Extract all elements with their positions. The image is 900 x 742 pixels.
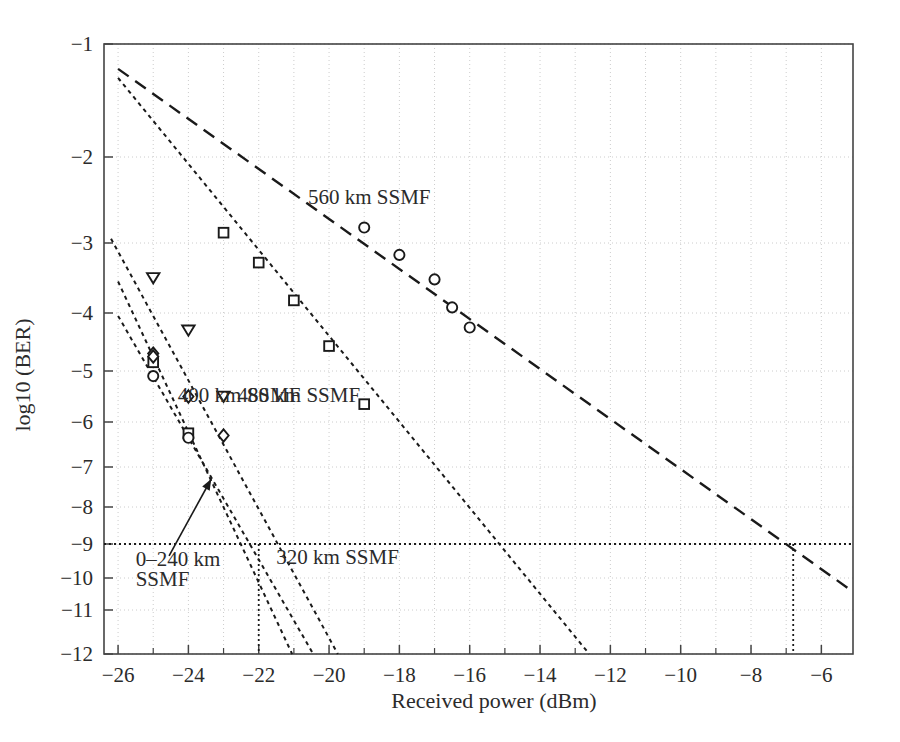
label-0-240km-line2: SSMF — [136, 567, 190, 591]
chart-figure: 560 km SSMF480 km SSMF400 km SSMF320 km … — [0, 0, 900, 742]
data-point-marker-circle — [183, 433, 193, 443]
x-tick-label: −24 — [172, 663, 205, 687]
ber-vs-received-power-chart: 560 km SSMF480 km SSMF400 km SSMF320 km … — [0, 0, 900, 742]
x-tick-label: −20 — [313, 663, 346, 687]
label-320km: 320 km SSMF — [276, 545, 399, 569]
x-tick-label: −10 — [664, 663, 697, 687]
y-tick-label: −7 — [71, 455, 93, 479]
data-point-marker-square — [254, 258, 264, 268]
data-point-marker-square — [324, 341, 334, 351]
y-tick-label: −5 — [71, 359, 93, 383]
x-tick-label: −12 — [594, 663, 627, 687]
data-point-marker-circle — [394, 250, 404, 260]
data-point-marker-circle — [148, 371, 158, 381]
y-tick-label: −3 — [71, 231, 93, 255]
x-tick-label: −18 — [383, 663, 416, 687]
label-400km: 400 km SSMF — [178, 383, 301, 407]
x-axis-title: Received power (dBm) — [391, 688, 596, 713]
y-tick-label: −9 — [71, 532, 93, 556]
y-tick-label: −4 — [71, 301, 94, 325]
label-560km: 560 km SSMF — [308, 185, 431, 209]
data-point-marker-circle — [465, 322, 475, 332]
x-tick-label: −22 — [242, 663, 275, 687]
y-tick-label: −6 — [71, 410, 93, 434]
x-tick-label: −16 — [453, 663, 486, 687]
x-tick-label: −26 — [102, 663, 135, 687]
y-axis-title: log10 (BER) — [10, 318, 35, 431]
x-tick-label: −8 — [740, 663, 762, 687]
data-point-marker-circle — [429, 274, 439, 284]
y-tick-label: −10 — [60, 566, 93, 590]
y-tick-label: −2 — [71, 145, 93, 169]
y-tick-label: −11 — [61, 598, 93, 622]
data-point-marker-circle — [447, 302, 457, 312]
data-point-marker-square — [359, 399, 369, 409]
y-tick-label: −1 — [71, 32, 93, 56]
x-tick-label: −6 — [810, 663, 832, 687]
data-point-marker-square — [219, 228, 229, 238]
data-point-marker-square — [289, 296, 299, 306]
x-tick-label: −14 — [524, 663, 557, 687]
y-tick-label: −8 — [71, 495, 93, 519]
y-tick-label: −12 — [60, 642, 93, 666]
data-point-marker-circle — [359, 222, 369, 232]
